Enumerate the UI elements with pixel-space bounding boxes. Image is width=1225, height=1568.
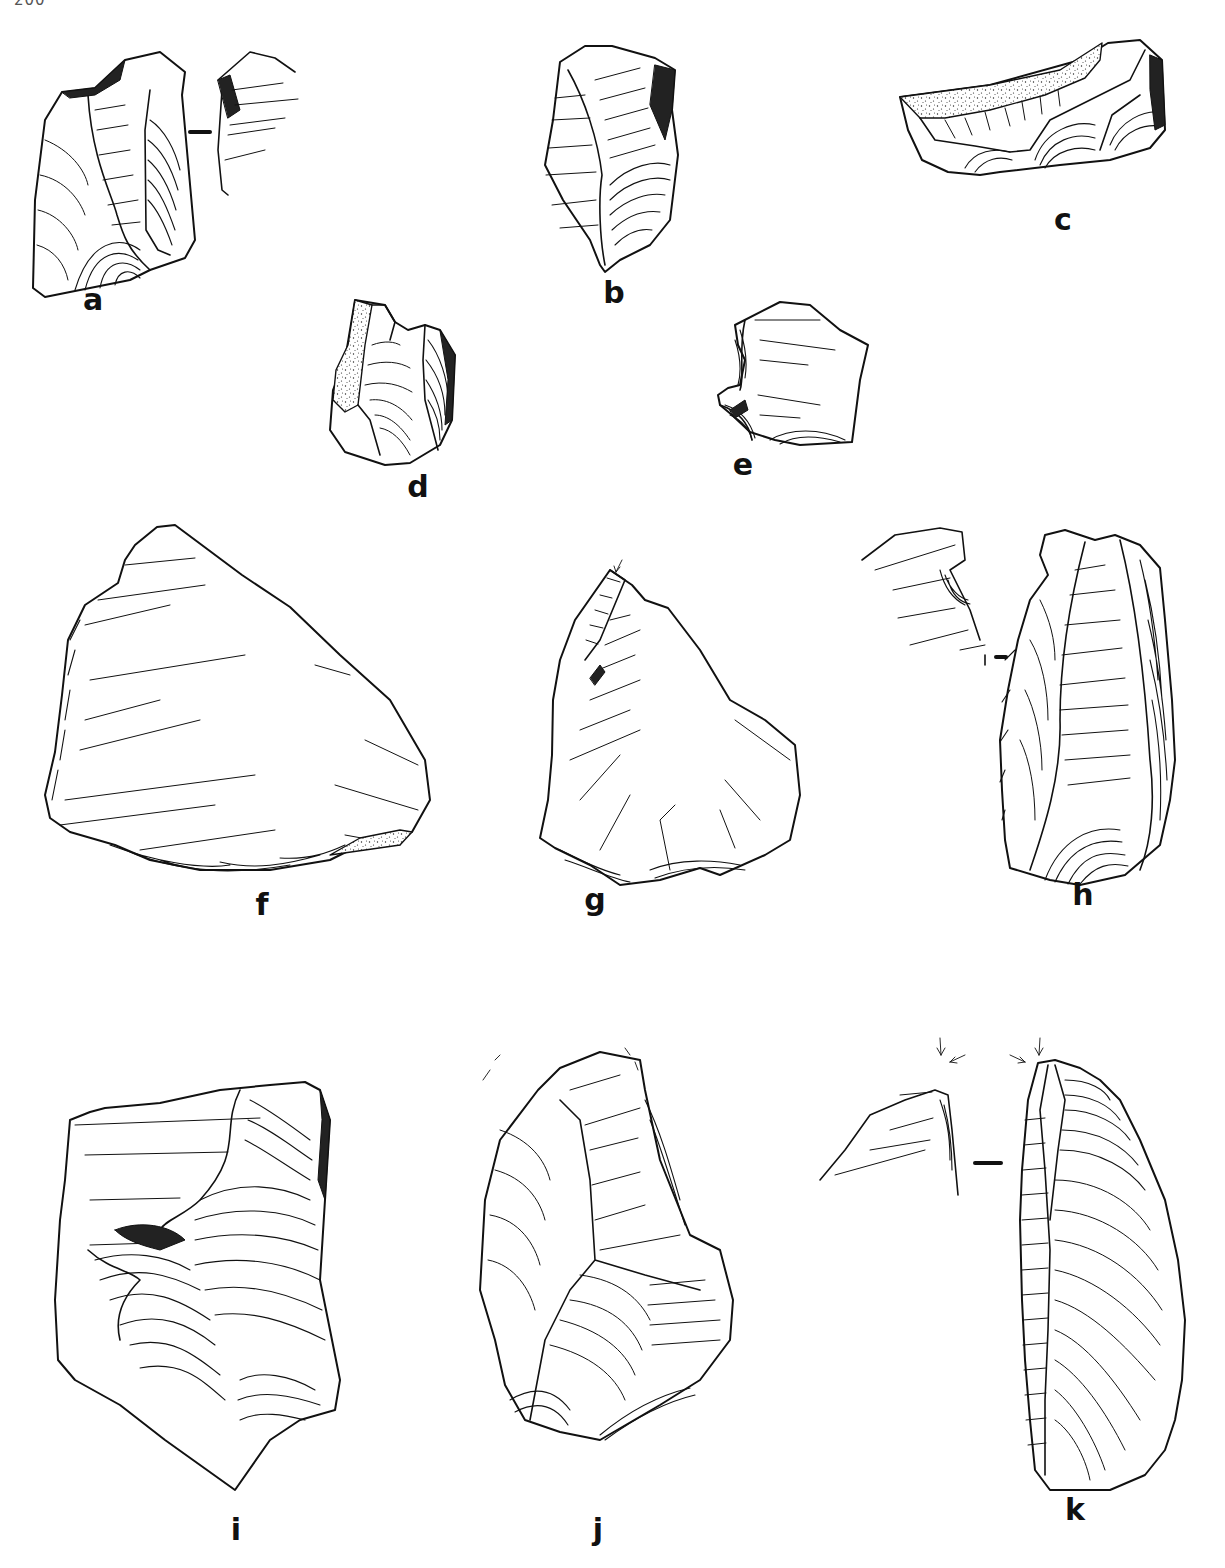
artifact-a [33,52,298,297]
figure-label-c: c [1054,205,1072,235]
artifact-c [900,40,1165,175]
artifact-h [862,528,1175,885]
artifact-g [540,560,800,885]
artifact-d [330,300,455,465]
artifact-plate: a b c d e f g h i j k [0,0,1225,1568]
figure-label-k: k [1065,1495,1085,1525]
figure-label-a: a [83,285,103,315]
artifact-e [718,302,868,445]
figure-label-h: h [1072,880,1093,910]
plate-drawings [0,0,1225,1568]
artifact-i [55,1082,340,1490]
figure-label-f: f [255,890,268,920]
figure-label-g: g [584,885,605,915]
artifact-b [545,46,678,272]
artifact-f [45,525,430,871]
artifact-j [480,1048,733,1440]
figure-label-b: b [603,278,624,308]
figure-label-d: d [407,472,428,502]
figure-label-e: e [733,450,753,480]
figure-label-j: j [593,1515,603,1545]
figure-label-i: i [231,1515,241,1545]
artifact-k [820,1038,1185,1490]
